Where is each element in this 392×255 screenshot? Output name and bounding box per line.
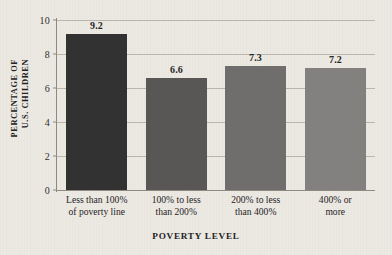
y-tick-label-2: 2 [45, 151, 50, 162]
gridline-10 [57, 20, 375, 21]
bar-value-label-1: 9.2 [90, 20, 103, 31]
y-tick-mark-8 [53, 54, 57, 55]
category-label-1-line-2: of poverty line [57, 206, 137, 218]
category-label-3-line-1: 200% to less [231, 194, 280, 205]
y-axis-title-line-2: U.S. CHILDREN [21, 59, 30, 128]
category-label-4-line-2: more [296, 206, 376, 218]
gridline-0 [57, 190, 375, 191]
category-label-3-line-2: than 400% [216, 206, 296, 218]
y-tick-mark-2 [53, 156, 57, 157]
y-tick-mark-4 [53, 122, 57, 123]
category-label-1-line-1: Less than 100% [66, 194, 127, 205]
bar-1[interactable]: 9.2 [66, 34, 127, 190]
category-label-2: 100% to lessthan 200% [137, 194, 217, 219]
y-tick-mark-0 [53, 190, 57, 191]
bar-value-label-4: 7.2 [329, 54, 342, 65]
category-label-4: 400% ormore [296, 194, 376, 219]
bar-value-label-3: 7.3 [249, 52, 262, 63]
category-label-2-line-1: 100% to less [152, 194, 201, 205]
y-tick-label-4: 4 [45, 117, 50, 128]
category-label-3: 200% to lessthan 400% [216, 194, 296, 219]
y-tick-mark-10 [53, 20, 57, 21]
y-tick-label-8: 8 [45, 49, 50, 60]
y-tick-label-6: 6 [45, 83, 50, 94]
category-label-2-line-2: than 200% [137, 206, 217, 218]
bar-2[interactable]: 6.6 [146, 78, 207, 190]
y-tick-label-10: 10 [40, 15, 50, 26]
y-tick-mark-6 [53, 88, 57, 89]
y-axis-title: PERCENTAGE OF U.S. CHILDREN [8, 50, 32, 180]
y-axis-title-line-1: PERCENTAGE OF [10, 59, 19, 137]
bar-value-label-2: 6.6 [170, 64, 183, 75]
x-axis-title: POVERTY LEVEL [0, 231, 392, 241]
category-label-4-line-1: 400% or [319, 194, 352, 205]
bar-4[interactable]: 7.2 [305, 68, 366, 190]
y-tick-label-0: 0 [45, 185, 50, 196]
bar-chart-figure: PERCENTAGE OF U.S. CHILDREN 02468109.26.… [0, 0, 392, 255]
bar-3[interactable]: 7.3 [225, 66, 286, 190]
plot-area: 02468109.26.67.37.2 [57, 20, 375, 190]
category-label-1: Less than 100%of poverty line [57, 194, 137, 219]
